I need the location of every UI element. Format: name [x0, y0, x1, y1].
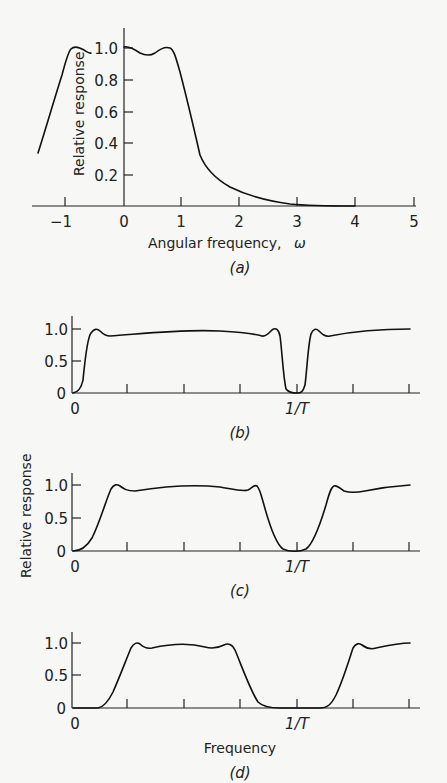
caption-a: (a) [230, 259, 251, 277]
ytick-label: 0.4 [94, 135, 118, 153]
xtick-label: 3 [292, 213, 302, 231]
xtick-label-origin: 0 [70, 558, 80, 576]
ytick-label: 1.0 [44, 321, 68, 339]
xtick-label-origin: 0 [70, 715, 80, 733]
response-curve-d [73, 643, 410, 708]
x-axis-label-a: Angular frequency, ω [148, 235, 306, 251]
xtick-label-origin: 0 [70, 400, 80, 418]
xtick-label-1-over-T: 1/T [285, 400, 311, 418]
caption-c: (c) [230, 582, 250, 600]
x-axis-label-d: Frequency [204, 740, 276, 756]
ytick-label: 0.5 [44, 510, 68, 528]
xtick-label: 5 [409, 213, 419, 231]
chart-c: 1.0 0.5 0 Relative response 0 1/T (c) [18, 454, 420, 601]
ytick-label: 0 [56, 700, 66, 718]
xtick-label: −1 [50, 213, 72, 231]
chart-a: 1.0 0.8 0.6 0.4 0.2 Relative response −1… [32, 28, 419, 277]
y-ticks-b [72, 329, 81, 361]
ytick-label: 0 [56, 385, 66, 403]
y-tick-labels-a: 1.0 0.8 0.6 0.4 0.2 [94, 40, 118, 185]
ytick-label: 0.2 [94, 167, 118, 185]
x-ticks-c [127, 542, 409, 551]
figure-canvas: 1.0 0.8 0.6 0.4 0.2 Relative response −1… [0, 0, 447, 783]
x-ticks-b [127, 384, 409, 393]
response-curve-b [73, 329, 410, 393]
ytick-label: 1.0 [94, 40, 118, 58]
caption-d: (d) [229, 764, 250, 782]
x-ticks-a [65, 197, 414, 206]
chart-d: 1.0 0.5 0 0 1/T Frequency (d) [44, 632, 420, 782]
ytick-label: 0.6 [94, 104, 118, 122]
xtick-label-1-over-T: 1/T [285, 558, 311, 576]
chart-b: 1.0 0.5 0 0 1/T (b) [44, 316, 420, 442]
y-ticks-c [72, 485, 81, 518]
response-curve-c [73, 485, 410, 551]
y-axis-label-a: Relative response [71, 52, 87, 177]
ytick-label: 1.0 [44, 635, 68, 653]
x-tick-labels-a: −1 0 1 2 3 4 5 [50, 213, 419, 231]
xtick-label: 1 [176, 213, 186, 231]
ytick-label: 0.8 [94, 72, 118, 90]
ytick-label: 0.5 [44, 667, 68, 685]
ytick-label: 0 [56, 543, 66, 561]
y-ticks-a [124, 48, 133, 175]
y-ticks-d [72, 643, 81, 675]
ytick-label: 0.5 [44, 353, 68, 371]
caption-b: (b) [229, 424, 250, 442]
xtick-label-1-over-T: 1/T [285, 715, 311, 733]
xtick-label: 0 [119, 213, 129, 231]
xtick-label: 2 [234, 213, 244, 231]
xtick-label: 4 [350, 213, 360, 231]
ytick-label: 1.0 [44, 477, 68, 495]
y-axis-label-c: Relative response [18, 454, 34, 579]
